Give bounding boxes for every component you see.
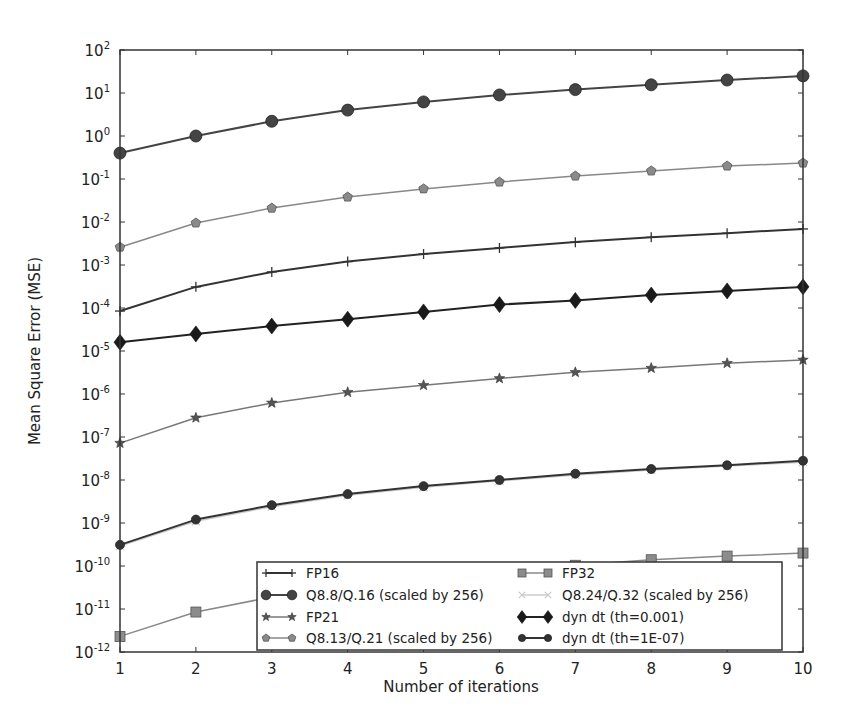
legend: FP16Q8.8/Q.16 (scaled by 256)FP21Q8.13/Q… bbox=[257, 562, 782, 650]
x-tick-label: 6 bbox=[495, 660, 505, 678]
series-q8-13-q-21-scaled-by-256- bbox=[115, 158, 808, 251]
y-tick-label: 10-5 bbox=[81, 341, 110, 361]
y-tick-label: 100 bbox=[85, 126, 110, 146]
legend-label: FP32 bbox=[562, 565, 595, 581]
series-dyn-dt-th-1e-07- bbox=[116, 456, 808, 549]
y-tick-label: 10-11 bbox=[75, 599, 110, 619]
chart-canvas: 10210110010-110-210-310-410-510-610-710-… bbox=[0, 0, 855, 726]
legend-label: Q8.24/Q.32 (scaled by 256) bbox=[562, 587, 748, 603]
y-tick-label: 10-1 bbox=[81, 169, 110, 189]
y-axis-label: Mean Square Error (MSE) bbox=[26, 257, 44, 445]
series-q8-8-q-16-scaled-by-256- bbox=[114, 70, 809, 159]
x-tick-label: 7 bbox=[571, 660, 581, 678]
x-tick-label: 10 bbox=[793, 660, 812, 678]
y-tick-label: 101 bbox=[85, 83, 110, 103]
x-tick-label: 3 bbox=[267, 660, 277, 678]
y-tick-label: 10-9 bbox=[81, 513, 110, 533]
x-axis-label: Number of iterations bbox=[383, 678, 539, 696]
x-tick-label: 1 bbox=[115, 660, 125, 678]
series-fp21 bbox=[115, 354, 808, 447]
legend-label: dyn dt (th=0.001) bbox=[562, 609, 684, 625]
legend-label: Q8.13/Q.21 (scaled by 256) bbox=[306, 630, 492, 646]
series-layer bbox=[114, 70, 809, 642]
mse-chart: 10210110010-110-210-310-410-510-610-710-… bbox=[0, 0, 855, 726]
x-tick-label: 2 bbox=[191, 660, 201, 678]
legend-label: Q8.8/Q.16 (scaled by 256) bbox=[306, 587, 484, 603]
legend-label: FP16 bbox=[306, 565, 339, 581]
y-tick-label: 10-4 bbox=[81, 298, 110, 318]
y-tick-label: 10-3 bbox=[81, 255, 110, 275]
y-tick-label: 10-2 bbox=[81, 212, 110, 232]
x-tick-label: 8 bbox=[646, 660, 656, 678]
x-tick-label: 5 bbox=[419, 660, 429, 678]
y-tick-label: 10-6 bbox=[81, 384, 110, 404]
legend-label: FP21 bbox=[306, 609, 339, 625]
y-tick-label: 10-8 bbox=[81, 470, 110, 490]
y-tick-label: 10-7 bbox=[81, 427, 110, 447]
series-dyn-dt-th-0-001- bbox=[114, 279, 809, 350]
x-tick-label: 9 bbox=[722, 660, 732, 678]
y-tick-label: 102 bbox=[85, 40, 110, 60]
legend-label: dyn dt (th=1E-07) bbox=[562, 630, 684, 646]
series-fp16 bbox=[115, 224, 808, 316]
y-tick-label: 10-12 bbox=[75, 642, 110, 662]
y-tick-label: 10-10 bbox=[75, 556, 110, 576]
x-tick-label: 4 bbox=[343, 660, 353, 678]
series-q8-24-q-32-scaled-by-256- bbox=[116, 458, 807, 550]
